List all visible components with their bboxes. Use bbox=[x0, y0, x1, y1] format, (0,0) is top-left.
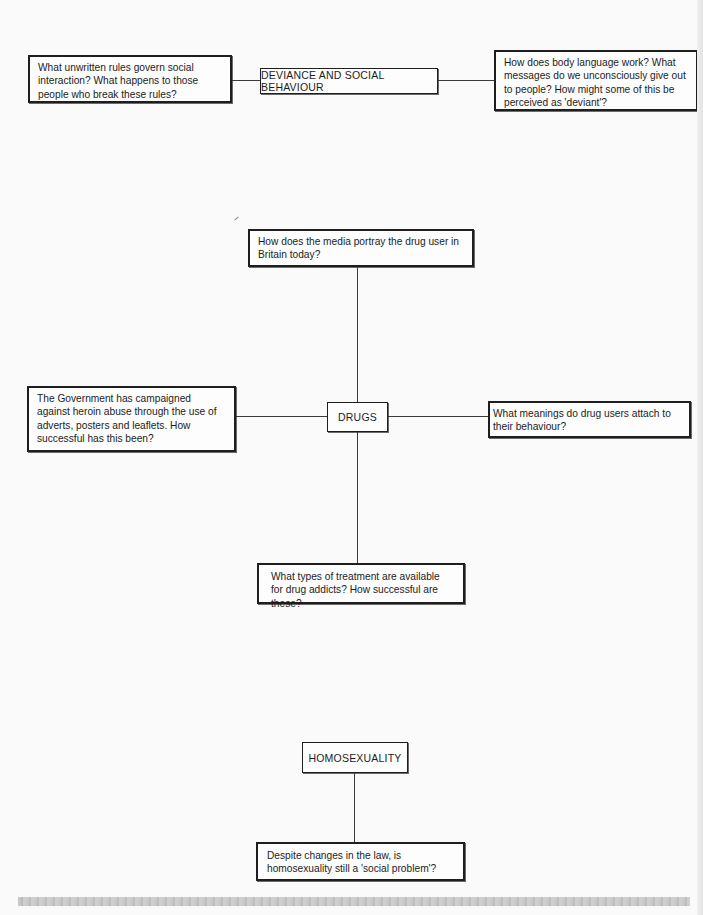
question-text: The Government has campaigned against he… bbox=[37, 393, 217, 444]
footer-rule bbox=[18, 897, 690, 906]
topic-box-homosexuality: HOMOSEXUALITY bbox=[302, 742, 408, 773]
question-box-government-campaign: The Government has campaigned against he… bbox=[27, 386, 236, 452]
stray-pen-mark bbox=[234, 217, 238, 221]
topic-box-deviance: DEVIANCE AND SOCIAL BEHAVIOUR bbox=[260, 68, 438, 94]
page-edge-shadow bbox=[697, 0, 703, 915]
question-box-body-language: How does body language work? What messag… bbox=[494, 50, 698, 111]
topic-label: HOMOSEXUALITY bbox=[308, 752, 401, 764]
question-text: What meanings do drug users attach to th… bbox=[493, 408, 671, 432]
topic-label: DEVIANCE AND SOCIAL BEHAVIOUR bbox=[261, 69, 437, 93]
question-box-drug-user-meanings: What meanings do drug users attach to th… bbox=[488, 401, 691, 438]
connector-line bbox=[357, 432, 358, 563]
connector-line bbox=[388, 416, 488, 417]
question-box-treatment: What types of treatment are available fo… bbox=[257, 563, 465, 604]
question-box-media-portrayal: How does the media portray the drug user… bbox=[248, 229, 474, 267]
topic-label: DRUGS bbox=[338, 411, 377, 423]
question-box-unwritten-rules: What unwritten rules govern social inter… bbox=[28, 55, 232, 103]
connector-line bbox=[236, 416, 327, 417]
connector-line bbox=[232, 80, 260, 81]
question-text: What unwritten rules govern social inter… bbox=[38, 62, 198, 100]
question-text: Despite changes in the law, is homosexua… bbox=[267, 850, 436, 874]
connector-line bbox=[354, 773, 355, 842]
question-text: How does the media portray the drug user… bbox=[258, 236, 459, 260]
topic-box-drugs: DRUGS bbox=[327, 402, 388, 432]
question-text: How does body language work? What messag… bbox=[504, 57, 686, 108]
question-text: What types of treatment are available fo… bbox=[271, 571, 440, 609]
connector-line bbox=[438, 80, 494, 81]
connector-line bbox=[357, 267, 358, 402]
question-box-social-problem: Despite changes in the law, is homosexua… bbox=[256, 842, 465, 881]
